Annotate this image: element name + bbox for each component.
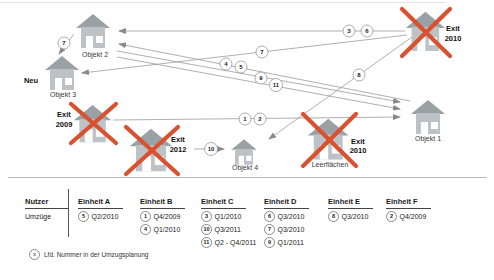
table-col-einheit-f: Einheit F 2 Q4/2009 xyxy=(386,190,431,226)
move-number-badge: 7 xyxy=(264,224,275,235)
table-vertical-rule xyxy=(68,189,69,237)
table-col-einheit-c: Einheit C 3 Q1/2010 10 Q3/2011 11 Q2 - Q… xyxy=(201,190,256,252)
move-marker-7-short: 7 xyxy=(58,37,70,49)
exit-2010-top-label-line2: 2010 xyxy=(445,34,462,43)
svg-text:10: 10 xyxy=(208,146,215,152)
entry-quarter: Q3/2010 xyxy=(278,213,305,220)
entry-quarter: Q1/2010 xyxy=(154,226,181,233)
entry-quarter: Q3/2010 xyxy=(278,226,305,233)
leerflaechen-label: Leerflächen xyxy=(312,161,349,168)
objekt-3-label: Objekt 3 xyxy=(50,91,76,99)
move-number-badge: 9 xyxy=(264,237,275,248)
table-entry: 11 Q2 - Q4/2011 xyxy=(201,239,256,252)
table-col-einheit-a: Einheit A 5 Q2/2010 xyxy=(78,190,123,226)
einheit-a-header: Einheit A xyxy=(78,197,123,209)
legend: x Lfd. Nummer in der Umzugsplanung xyxy=(29,249,148,260)
entry-quarter: Q1/2011 xyxy=(278,239,304,246)
exit-2012-label-line1: Exit xyxy=(171,135,185,144)
table-col-nutzer: Nutzer Umzüge xyxy=(25,190,68,226)
entry-quarter: Q3/2010 xyxy=(342,213,369,220)
entry-quarter: Q2 - Q4/2011 xyxy=(215,239,257,246)
leerflaechen-exit-label-line2: 2010 xyxy=(350,146,367,155)
move-marker-3: 3 xyxy=(343,25,355,37)
legend-text: Lfd. Nummer in der Umzugsplanung xyxy=(44,251,148,258)
move-number-badge: 6 xyxy=(264,211,275,222)
move-marker-8: 8 xyxy=(353,69,365,81)
building-objekt-2: Objekt 2 xyxy=(76,14,110,59)
building-leerflaechen: Exit 2010 Leerflächen xyxy=(303,114,366,168)
move-number-badge: 2 xyxy=(386,211,397,222)
entry-quarter: Q4/2009 xyxy=(154,213,181,220)
relocation-plan-slide: Objekt 2 Neu Objekt 3 Exit 2009 Exit 201… xyxy=(0,0,494,280)
relocation-diagram: Objekt 2 Neu Objekt 3 Exit 2009 Exit 201… xyxy=(0,0,494,178)
einheit-e-header: Einheit E xyxy=(328,197,373,209)
move-marker-9: 9 xyxy=(255,72,267,84)
entry-quarter: Q4/2009 xyxy=(400,213,427,220)
entry-quarter: Q1/2010 xyxy=(215,213,242,220)
einheit-f-header: Einheit F xyxy=(386,197,431,209)
move-number-badge: 3 xyxy=(201,211,212,222)
table-entry: 5 Q2/2010 xyxy=(78,213,123,226)
move-number-badge: 4 xyxy=(140,224,151,235)
nutzer-header: Nutzer xyxy=(25,197,68,209)
table-col-einheit-b: Einheit B 1 Q4/2009 4 Q1/2010 xyxy=(140,190,185,239)
exit-2010-top-label-line1: Exit xyxy=(446,24,460,33)
arrow-move-8 xyxy=(269,37,412,139)
building-objekt-3: Neu Objekt 3 xyxy=(24,56,79,99)
move-marker-1: 1 xyxy=(239,113,251,125)
table-entry: 8 Q3/2010 xyxy=(328,213,373,226)
entry-quarter: Q3/2011 xyxy=(215,226,241,233)
move-number-badge: 10 xyxy=(201,224,212,235)
move-marker-6: 6 xyxy=(361,25,373,37)
svg-text:11: 11 xyxy=(273,82,280,88)
table-entry: 2 Q4/2009 xyxy=(386,213,431,226)
building-objekt-4: Objekt 4 xyxy=(231,139,258,172)
move-marker-4: 4 xyxy=(220,58,232,70)
einheit-d-header: Einheit D xyxy=(264,197,309,209)
move-number-badge: 11 xyxy=(201,237,212,248)
table-entry: 4 Q1/2010 xyxy=(140,226,185,239)
move-marker-11: 11 xyxy=(270,79,283,92)
move-marker-10: 10 xyxy=(205,143,218,156)
building-objekt-1: Objekt 1 xyxy=(411,100,445,143)
objekt-1-label: Objekt 1 xyxy=(415,135,441,143)
nutzer-row-label: Umzüge xyxy=(25,213,68,226)
einheit-b-header: Einheit B xyxy=(140,197,185,209)
objekt-3-status-neu: Neu xyxy=(24,76,39,85)
exit-2009-label-line1: Exit xyxy=(57,110,71,119)
entry-quarter: Q2/2010 xyxy=(92,213,119,220)
objekt-4-label: Objekt 4 xyxy=(232,164,258,172)
exit-2009-label-line2: 2009 xyxy=(56,120,73,129)
legend-number-badge: x xyxy=(29,249,40,260)
move-number-badge: 8 xyxy=(328,211,339,222)
table-entry: 3 Q1/2010 xyxy=(201,213,256,226)
diagram-table-divider xyxy=(8,177,487,178)
move-marker-5: 5 xyxy=(235,61,247,73)
leerflaechen-exit-label-line1: Exit xyxy=(351,137,365,146)
table-entry: 10 Q3/2011 xyxy=(201,226,256,239)
building-exit-2012: Exit 2012 xyxy=(126,127,186,174)
einheit-c-header: Einheit C xyxy=(201,197,246,209)
table-col-einheit-d: Einheit D 6 Q3/2010 7 Q3/2010 9 Q1/2011 xyxy=(264,190,309,252)
exit-2012-label-line2: 2012 xyxy=(170,145,187,154)
table-entry: 9 Q1/2011 xyxy=(264,239,309,252)
move-number-badge: 1 xyxy=(140,211,151,222)
objekt-2-label: Objekt 2 xyxy=(82,51,108,59)
move-marker-7-long: 7 xyxy=(256,46,268,58)
table-col-einheit-e: Einheit E 8 Q3/2010 xyxy=(328,190,373,226)
building-exit-2009: Exit 2009 xyxy=(56,104,116,143)
move-number-badge: 5 xyxy=(78,211,89,222)
building-exit-2010-top: Exit 2010 xyxy=(402,9,461,56)
move-marker-2: 2 xyxy=(254,113,266,125)
